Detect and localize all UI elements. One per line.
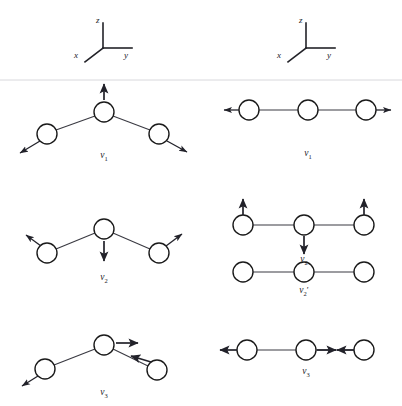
atom-center (296, 340, 316, 360)
mode-label-bent-v3: ν3 (100, 387, 107, 399)
mode-label-prime: ′ (307, 285, 309, 295)
bond-right (113, 233, 150, 249)
mode-bent-v3 (22, 335, 167, 386)
axis-label-x: x (73, 50, 78, 60)
atom-right (354, 262, 374, 282)
arrow-right-atom (166, 234, 182, 246)
mode-linear-v1 (224, 100, 391, 120)
atom-right (147, 360, 167, 380)
bond-right (113, 349, 148, 366)
figure-canvas: z y x z y x (0, 0, 402, 406)
bond-left (56, 116, 95, 130)
axis-label-z: z (95, 15, 100, 25)
mode-bent-v1 (20, 84, 187, 153)
mode-label-linear-v2: ν2 (300, 254, 307, 266)
arrow-right-atom (167, 141, 187, 152)
mode-linear-v2 (233, 199, 374, 254)
atom-center (294, 215, 314, 235)
atom-left (237, 340, 257, 360)
atom-center (298, 100, 318, 120)
arrow-left-atom (20, 141, 40, 153)
atom-center (94, 335, 114, 355)
bond-right (113, 116, 150, 130)
mode-label-subscript: 1 (308, 153, 311, 160)
mode-label-bent-v1: ν1 (100, 150, 107, 162)
mode-label-subscript: 3 (104, 392, 107, 399)
axis-label-z: z (298, 15, 303, 25)
atom-center (94, 102, 114, 122)
atom-right (354, 340, 374, 360)
atom-left (233, 262, 253, 282)
normal-modes-figure: z y x z y x (0, 0, 402, 406)
arrow-left-atom (26, 235, 41, 246)
mode-label-linear-v1: ν1 (304, 148, 311, 160)
mode-label-subscript: 2 (104, 277, 107, 284)
axis-label-y: y (326, 50, 331, 60)
mode-bent-v2 (26, 219, 182, 263)
arrow-left-atom (22, 376, 38, 386)
axis-x-line (85, 48, 103, 62)
atom-left (239, 100, 259, 120)
mode-linear-v3 (220, 340, 374, 360)
atom-right (356, 100, 376, 120)
atom-right (354, 215, 374, 235)
axis-x-line (288, 48, 306, 62)
mode-label-subscript: 2 (304, 259, 307, 266)
bond-left (54, 349, 95, 365)
axis-legend-right: z y x (276, 15, 335, 62)
axis-label-x: x (276, 50, 281, 60)
atom-left (233, 215, 253, 235)
axis-legend-left: z y x (73, 15, 132, 62)
mode-label-subscript: 3 (306, 371, 309, 378)
bond-left (56, 233, 95, 249)
atom-center (94, 219, 114, 239)
mode-label-linear-v2-prime: ν2′ (299, 285, 308, 297)
atom-right (149, 124, 169, 144)
mode-label-subscript: 1 (104, 155, 107, 162)
mode-label-bent-v2: ν2 (100, 272, 107, 284)
axis-label-y: y (123, 50, 128, 60)
mode-label-linear-v3: ν3 (302, 366, 309, 378)
